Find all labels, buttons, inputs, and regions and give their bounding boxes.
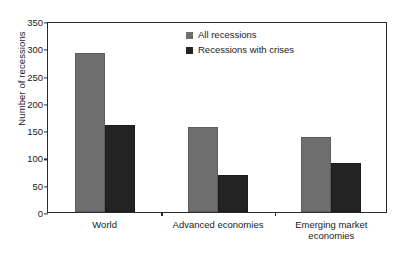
legend-label-all-recessions: All recessions xyxy=(198,30,257,40)
y-axis-tick-mark xyxy=(44,213,48,214)
legend: All recessions Recessions with crises xyxy=(186,30,294,55)
bar xyxy=(105,125,135,212)
bar-chart-figure: Number of recessions 0501001502002503003… xyxy=(0,0,399,260)
legend-swatch-all-recessions xyxy=(186,32,193,39)
x-axis-tick-mark xyxy=(275,212,276,216)
x-axis-category-label: Advanced economies xyxy=(163,219,273,230)
bar-group xyxy=(301,23,361,212)
bar xyxy=(218,175,248,212)
legend-label-recessions-with-crises: Recessions with crises xyxy=(198,45,294,55)
plot-area: 050100150200250300350 WorldAdvanced econ… xyxy=(47,22,387,213)
x-axis-tick-mark xyxy=(161,212,162,216)
bar-group xyxy=(75,23,135,212)
legend-item: All recessions xyxy=(186,30,294,40)
bar xyxy=(331,163,361,212)
legend-swatch-recessions-with-crises xyxy=(186,47,193,54)
x-axis-category-label: Emerging market economies xyxy=(276,219,386,241)
legend-item: Recessions with crises xyxy=(186,45,294,55)
bar xyxy=(75,53,105,212)
x-axis-category-label: World xyxy=(50,219,160,230)
bar xyxy=(301,137,331,212)
y-axis-title: Number of recessions xyxy=(16,4,27,154)
bar xyxy=(188,127,218,212)
